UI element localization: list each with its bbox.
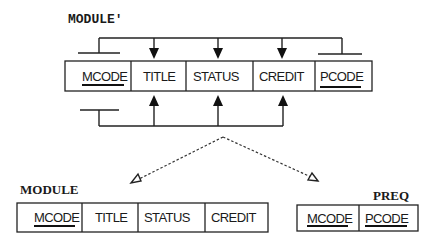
hollow-arrowhead-icon (308, 173, 318, 181)
attr-status: STATUS (193, 69, 240, 84)
attr-mcode: MCODE (307, 211, 353, 226)
bottom-dependency (80, 95, 288, 126)
top-dependency (78, 38, 362, 59)
source-relation-table: MCODE TITLE STATUS CREDIT PCODE (65, 61, 372, 91)
arrowhead-down-icon (277, 48, 287, 59)
attr-mcode: MCODE (34, 210, 80, 225)
attr-credit: CREDIT (259, 69, 304, 84)
attr-title: TITLE (95, 210, 128, 225)
preq-relation-name: PREQ (373, 188, 409, 203)
attr-pcode: PCODE (365, 211, 409, 226)
attr-mcode: MCODE (82, 69, 128, 84)
source-relation-name: MODULE' (68, 12, 123, 27)
hollow-arrowhead-icon (131, 174, 141, 183)
attr-status: STATUS (144, 210, 191, 225)
decomposition-diagram: MODULE' MCODE TITLE STATUS CREDIT PCODE (0, 0, 430, 249)
module-relation-table: MCODE TITLE STATUS CREDIT (17, 203, 268, 232)
arrowhead-down-icon (149, 48, 159, 59)
arrowhead-up-icon (213, 95, 223, 106)
arrowhead-up-icon (278, 95, 288, 106)
attr-title: TITLE (143, 69, 176, 84)
arrowhead-up-icon (149, 95, 159, 106)
module-relation-name: MODULE (20, 182, 79, 197)
arrowhead-down-icon (213, 48, 223, 59)
attr-credit: CREDIT (211, 210, 256, 225)
dashed-arrow-to-preq (223, 137, 311, 177)
preq-relation-table: MCODE PCODE (297, 205, 418, 231)
attr-pcode: PCODE (320, 69, 364, 84)
dashed-arrow-to-module (137, 137, 223, 180)
decomposition-arrows (131, 137, 318, 183)
